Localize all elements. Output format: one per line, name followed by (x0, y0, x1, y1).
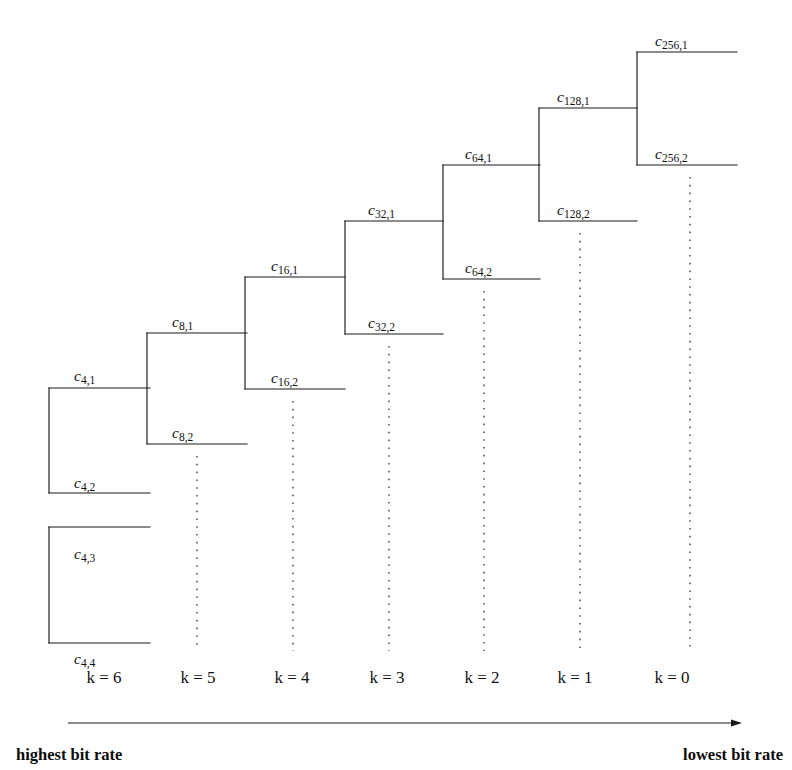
node-label-lower-k-6: c4,2 (74, 474, 96, 494)
level-k-1: c128,1c128,2 (539, 88, 637, 651)
k-label-6: k = 6 (86, 668, 121, 687)
k-label-1: k = 1 (557, 668, 592, 687)
node-label-lower-k-4: c16,2 (271, 369, 298, 389)
node-label-upper-k-2: c64,1 (465, 145, 492, 165)
level-k-2: c64,1c64,2 (443, 145, 540, 651)
level-k-6: c4,1c4,2 (49, 367, 150, 494)
node-label-upper-k-3: c32,1 (368, 201, 395, 221)
node-label-c4-3: c4,3 (74, 545, 96, 565)
level-k-4: c16,1c16,2 (245, 257, 345, 651)
bit-rate-axis-group: highest bit ratelowest bit rate (16, 719, 783, 764)
highest-bit-rate-label: highest bit rate (16, 745, 122, 764)
wavelet-packet-tree-diagram: c4,1c4,2c8,1c8,2c16,1c16,2c32,1c32,2c64,… (0, 0, 792, 770)
node-label-upper-k-4: c16,1 (271, 257, 298, 277)
lowest-bit-rate-label: lowest bit rate (683, 745, 783, 764)
bit-rate-axis-arrowhead (731, 719, 742, 726)
k-label-0: k = 0 (654, 668, 689, 687)
node-label-lower-k-5: c8,2 (172, 424, 194, 444)
node-label-upper-k-6: c4,1 (74, 367, 96, 387)
node-label-lower-k-0: c256,2 (655, 145, 688, 165)
k-label-5: k = 5 (180, 668, 215, 687)
level-k-3: c32,1c32,2 (345, 201, 443, 651)
extra-box-group: c4,3c4,4 (49, 527, 150, 670)
node-label-lower-k-1: c128,2 (557, 201, 590, 221)
node-label-upper-k-1: c128,1 (557, 88, 590, 108)
node-label-lower-k-2: c64,2 (465, 259, 492, 279)
node-label-upper-k-0: c256,1 (655, 32, 688, 52)
level-k-5: c8,1c8,2 (147, 313, 247, 651)
k-label-2: k = 2 (464, 668, 499, 687)
k-label-4: k = 4 (274, 668, 310, 687)
k-axis-labels-group: k = 6k = 5k = 4k = 3k = 2k = 1k = 0 (86, 668, 689, 687)
node-label-lower-k-3: c32,2 (368, 314, 395, 334)
tree-canvas: c4,1c4,2c8,1c8,2c16,1c16,2c32,1c32,2c64,… (0, 0, 792, 770)
node-label-upper-k-5: c8,1 (172, 313, 194, 333)
k-label-3: k = 3 (369, 668, 404, 687)
levels-group: c4,1c4,2c8,1c8,2c16,1c16,2c32,1c32,2c64,… (49, 32, 737, 651)
level-k-0: c256,1c256,2 (637, 32, 737, 651)
